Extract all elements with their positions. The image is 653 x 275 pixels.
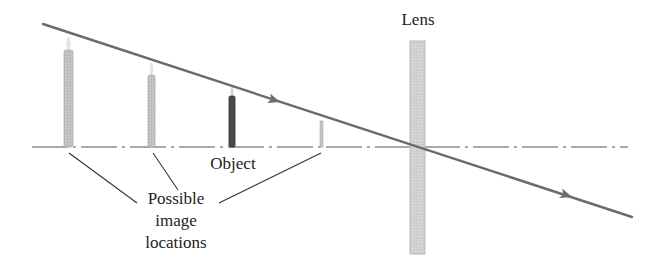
candle-object [229, 87, 235, 147]
flame-icon [150, 63, 152, 75]
possible-image-locations-label: Possible image locations [116, 188, 236, 254]
leader-line [153, 153, 178, 190]
ray-arrow-icon [559, 189, 574, 202]
ray-arrow-icon [267, 94, 282, 107]
object-label: Object [197, 153, 269, 175]
possible-label-line-2: image [116, 210, 236, 232]
diagram-canvas [0, 0, 653, 275]
flame-icon [231, 87, 233, 96]
possible-label-line-3: locations [116, 232, 236, 254]
candle-possible-image-3 [320, 121, 323, 147]
lens-ray-diagram: Lens Object Possible image locations [0, 0, 653, 275]
lens-label: Lens [388, 9, 448, 31]
candle-possible-image-1 [64, 37, 73, 147]
possible-label-line-1: Possible [116, 188, 236, 210]
candle-possible-image-2 [148, 63, 155, 147]
flame-icon [67, 37, 70, 50]
